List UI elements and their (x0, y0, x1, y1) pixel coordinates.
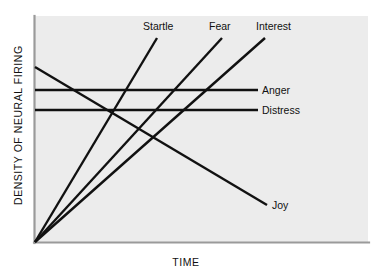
series-label-startle: Startle (143, 20, 174, 32)
y-axis-title: DENSITY OF NEURAL FIRING (12, 45, 24, 205)
plot-area-background (34, 16, 368, 243)
series-label-fear: Fear (209, 20, 231, 32)
figure-container: Startle Fear Interest Anger Distress Joy… (0, 0, 383, 275)
series-label-anger: Anger (262, 84, 291, 96)
series-label-interest: Interest (256, 20, 291, 32)
series-label-distress: Distress (262, 104, 300, 116)
neural-firing-chart: Startle Fear Interest Anger Distress Joy… (0, 0, 383, 275)
x-axis-title: TIME (172, 256, 199, 268)
series-label-joy: Joy (272, 199, 289, 211)
